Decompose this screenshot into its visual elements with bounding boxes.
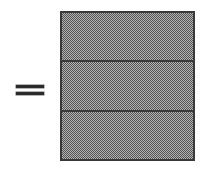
segmented-bar <box>60 11 195 161</box>
diagram-canvas <box>0 0 208 170</box>
bar-segment-1 <box>62 13 193 60</box>
bar-segment-2 <box>62 60 193 109</box>
equals-bar-bottom <box>16 92 44 95</box>
bar-segment-3 <box>62 110 193 159</box>
equals-bar-top <box>16 85 44 88</box>
equals-sign <box>16 85 44 96</box>
